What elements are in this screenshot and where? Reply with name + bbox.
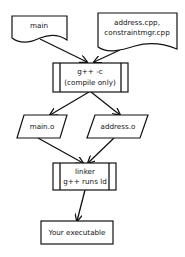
edge-main-to-compile (40, 39, 87, 62)
node-address-o: address.o (87, 115, 148, 138)
node-main-o: main.o (17, 115, 67, 138)
node-linker-process: linker g++ runs ld (53, 163, 116, 190)
node-cpp-sources: address.cpp, constraintmgr.cpp (98, 13, 177, 51)
edge-main-o-to-linker (38, 138, 83, 163)
edge-compile-to-main-o (50, 92, 89, 115)
node-executable-label: Your executable (47, 228, 106, 237)
node-compile-label-1: g++ -c (77, 67, 102, 76)
edge-cpp-to-compile (94, 50, 120, 62)
node-main-source: main (12, 16, 67, 42)
node-main-source-label: main (30, 21, 48, 30)
node-address-o-label: address.o (101, 122, 136, 131)
edge-compile-to-address-o (91, 92, 120, 115)
node-linker-label-1: linker (75, 167, 95, 176)
node-cpp-sources-label-1: address.cpp, (114, 18, 160, 27)
edge-address-o-to-linker (88, 138, 114, 163)
node-executable: Your executable (41, 221, 113, 244)
node-compile-label-2: (compile only) (64, 78, 116, 87)
node-cpp-sources-label-2: constraintmgr.cpp (104, 28, 170, 37)
flowchart: main address.cpp, constraintmgr.cpp g++ … (0, 0, 185, 257)
edge-linker-to-executable (77, 190, 85, 221)
node-linker-label-2: g++ runs ld (63, 177, 107, 186)
node-main-o-label: main.o (30, 122, 55, 131)
node-compile-process: g++ -c (compile only) (53, 63, 128, 92)
